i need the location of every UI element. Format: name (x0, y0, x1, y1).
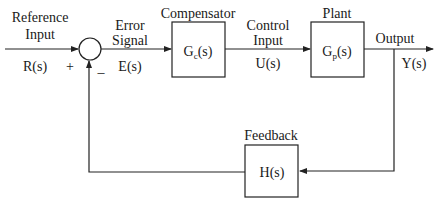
error-label-line2: Signal (112, 33, 148, 48)
minus-sign: _ (97, 60, 106, 75)
control-symbol: U(s) (256, 56, 281, 72)
error-symbol: E(s) (118, 59, 142, 75)
compensator-transfer-function: Gc(s) (184, 44, 213, 61)
feedback-return-path (89, 61, 245, 172)
reference-symbol: R(s) (23, 59, 47, 75)
summing-junction (79, 38, 101, 60)
control-label-line2: Input (253, 33, 283, 48)
reference-label-line2: Input (25, 27, 55, 42)
output-label: Output (376, 31, 415, 46)
feedback-title: Feedback (244, 128, 298, 143)
feedback-transfer-function: H(s) (260, 165, 285, 181)
control-loop-diagram: Reference Input R(s) + _ Error Signal E(… (0, 0, 443, 206)
output-symbol: Y(s) (402, 56, 427, 72)
plus-sign: + (66, 59, 74, 74)
error-label-line1: Error (115, 18, 145, 33)
reference-label-line1: Reference (12, 10, 69, 25)
compensator-title: Compensator (161, 6, 236, 21)
plant-title: Plant (323, 6, 352, 21)
control-label-line1: Control (247, 18, 290, 33)
plant-transfer-function: Gp(s) (322, 44, 352, 61)
